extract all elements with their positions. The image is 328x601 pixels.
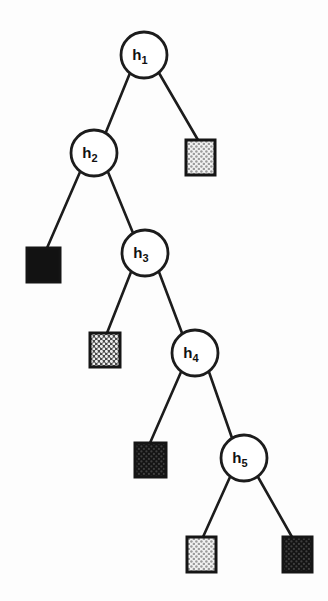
node-h3-subscript: 3: [143, 252, 149, 264]
node-h1-subscript: 1: [142, 54, 148, 66]
edge-h1-h2: [106, 73, 130, 132]
edge-h3-leaf3: [107, 272, 131, 333]
node-h5-subscript: 5: [242, 457, 248, 469]
node-h2-letter: h: [82, 144, 91, 161]
tree-diagram-canvas: h1 h2 h3 h4: [0, 0, 328, 601]
node-h1-letter: h: [132, 46, 141, 63]
leaf-2-fill: [27, 248, 60, 282]
tree-node-h3[interactable]: h3: [122, 230, 168, 276]
edge-h3-h4: [159, 272, 182, 333]
edge-h4-leaf4: [150, 372, 181, 443]
edge-h5-leaf6: [258, 477, 292, 537]
edge-h4-h5: [209, 372, 232, 438]
leaf-node-5[interactable]: [187, 537, 216, 572]
internal-node-group: h1 h2 h3 h4: [71, 32, 267, 481]
node-h4-subscript: 4: [193, 352, 200, 364]
leaf-5-fill: [187, 537, 216, 572]
leaf-4-fill: [135, 443, 166, 477]
leaf-node-4[interactable]: [135, 443, 166, 477]
node-h2-subscript: 2: [92, 152, 98, 164]
edge-h5-leaf5: [203, 477, 230, 537]
tree-diagram-svg: h1 h2 h3 h4: [0, 0, 328, 601]
leaf-node-3[interactable]: [90, 333, 120, 367]
edge-h2-leaf2: [47, 172, 80, 248]
leaf-3-fill: [90, 333, 120, 367]
tree-node-h2[interactable]: h2: [71, 130, 117, 176]
tree-node-h5[interactable]: h5: [221, 435, 267, 481]
edge-h2-h3: [108, 172, 133, 233]
leaf-node-6[interactable]: [283, 537, 312, 572]
node-h5-letter: h: [232, 449, 241, 466]
tree-node-h1[interactable]: h1: [121, 32, 167, 78]
node-h4-letter: h: [183, 344, 192, 361]
leaf-6-fill: [283, 537, 312, 572]
leaf-node-2[interactable]: [27, 248, 60, 282]
leaf-group: [27, 140, 312, 572]
edge-h1-leaf1: [159, 73, 198, 140]
node-h3-letter: h: [133, 244, 142, 261]
leaf-1-fill: [186, 140, 215, 175]
leaf-node-1[interactable]: [186, 140, 215, 175]
tree-node-h4[interactable]: h4: [172, 330, 218, 376]
